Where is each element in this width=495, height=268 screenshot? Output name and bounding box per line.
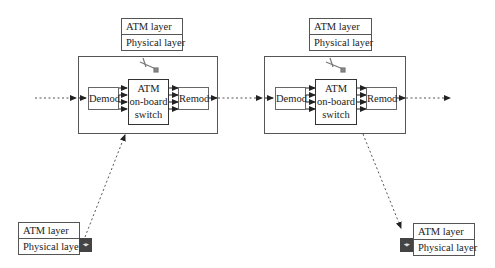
uplink <box>85 135 125 237</box>
satellite-2-protocol-stack: ATM layer Physical layer <box>309 18 372 51</box>
switch-label-line: ATM <box>316 82 356 95</box>
demod-block: Demod <box>275 87 306 110</box>
switch-label-line: on-board <box>316 95 356 108</box>
destination-earth-station-protocol-stack: ATM layer Physical layer <box>413 223 475 256</box>
demod-block: Demod <box>88 87 119 110</box>
downlink <box>363 134 401 228</box>
atm-on-board-switch: ATM on-board switch <box>315 79 357 125</box>
switch-label-line: ATM <box>129 82 168 95</box>
satellite-1-protocol-stack: ATM layer Physical layer <box>121 18 183 51</box>
remod-block: Remod <box>366 87 397 110</box>
earth-station-icon: ⌖ <box>79 238 92 252</box>
source-earth-station-protocol-stack: ATM layer Physical layer <box>18 222 80 255</box>
physical-layer-label: Physical layer <box>19 238 79 254</box>
earth-station-icon: ⌖ <box>400 238 413 252</box>
physical-layer-label: Physical layer <box>414 239 474 255</box>
switch-label-line: switch <box>316 108 356 121</box>
atm-on-board-switch: ATM on-board switch <box>128 79 169 125</box>
switch-label-line: switch <box>129 108 168 121</box>
atm-layer-label: ATM layer <box>122 19 182 34</box>
remod-block: Remod <box>178 87 209 110</box>
atm-layer-label: ATM layer <box>19 223 79 238</box>
switch-label-line: on-board <box>129 95 168 108</box>
physical-layer-label: Physical layer <box>122 34 182 50</box>
atm-layer-label: ATM layer <box>414 224 474 239</box>
physical-layer-label: Physical layer <box>310 34 371 50</box>
atm-layer-label: ATM layer <box>310 19 371 34</box>
